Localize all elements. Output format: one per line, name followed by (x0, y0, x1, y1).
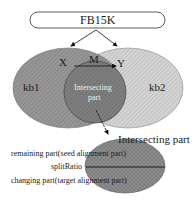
detail-title: Intersecting part (118, 134, 190, 145)
intersection-label-line1: Intersecting (74, 84, 112, 92)
intersection-circle (64, 61, 126, 123)
m-label: M (89, 54, 99, 65)
x-label: X (59, 57, 67, 68)
y-label: Y (117, 58, 125, 69)
changing-part-label: changing part(target alignment part) (11, 177, 127, 185)
split-ratio-label: splitRatio (51, 163, 82, 171)
arrow-to-kb2 (96, 30, 117, 46)
intersection-label-line2: part (88, 94, 100, 102)
fb15k-label: FB15K (80, 14, 115, 26)
remaining-part-label: remaining part(seed alignment part) (11, 150, 126, 158)
arrow-to-kb1 (71, 30, 96, 46)
kb1-label: kb1 (23, 82, 40, 93)
kb2-label: kb2 (149, 82, 166, 93)
